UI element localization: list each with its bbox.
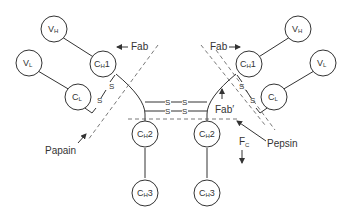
pepsin-label: Pepsin [267,138,298,149]
fab-right-label: Fab [210,41,228,52]
fab-left-label: Fab [131,41,149,52]
hinge-s1: S [165,98,170,107]
papain-arrow-icon [78,134,86,143]
antibody-diagram: S S S S S S S S [0,0,352,220]
hinge-s2: S [182,98,187,107]
fc-stems [145,148,207,178]
fc-label: FC [239,136,250,148]
left-ss-bond [92,75,115,113]
left-ss-s1: S [97,96,102,105]
papain-label: Papain [45,145,76,156]
fab-prime-label: Fab′ [215,104,234,115]
hinge-s4: S [182,107,187,116]
left-ss-s2: S [109,82,114,91]
hinge-bonds [145,102,207,111]
right-ss-bond [237,75,260,113]
hinge-s3: S [165,107,170,116]
right-ss-s1: S [239,82,244,91]
